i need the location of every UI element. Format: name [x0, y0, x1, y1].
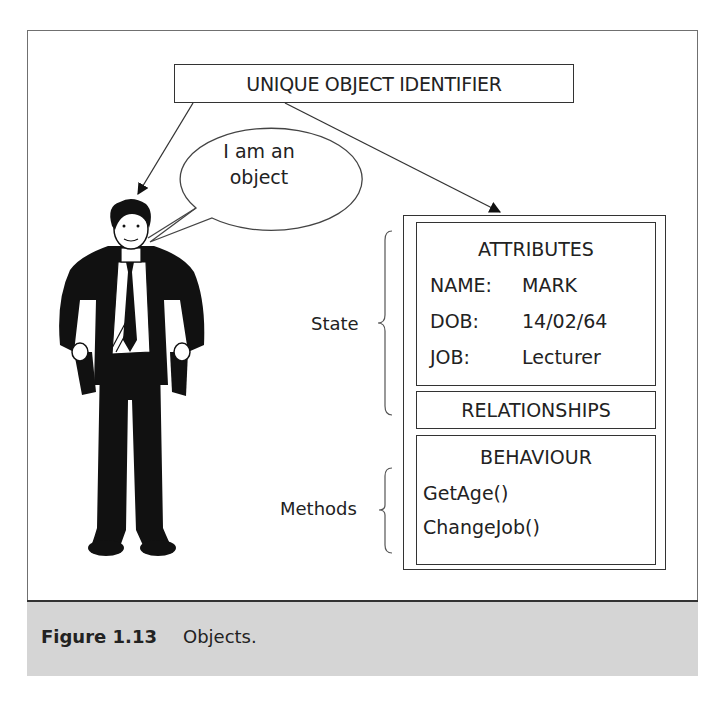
caption-text: Objects.: [183, 626, 257, 647]
state-brace-icon: [378, 231, 392, 415]
speech-line-1: I am an: [178, 138, 340, 164]
caption-number: Figure 1.13: [41, 626, 157, 647]
attribute-value: Lecturer: [522, 346, 601, 368]
unique-object-identifier-box: UNIQUE OBJECT IDENTIFIER: [174, 64, 574, 103]
method-item: ChangeJob(): [423, 516, 540, 538]
attribute-key: DOB:: [430, 310, 479, 332]
relationships-heading: RELATIONSHIPS: [416, 399, 656, 421]
figure-caption: Figure 1.13 Objects.: [27, 600, 698, 676]
method-item: GetAge(): [423, 482, 508, 504]
methods-brace-icon: [379, 468, 392, 553]
attribute-value: 14/02/64: [522, 310, 607, 332]
behaviour-heading: BEHAVIOUR: [416, 446, 656, 468]
attributes-heading: ATTRIBUTES: [416, 238, 656, 260]
unique-object-identifier-label: UNIQUE OBJECT IDENTIFIER: [246, 73, 501, 95]
speech-line-2: object: [178, 164, 340, 190]
methods-label: Methods: [280, 498, 357, 519]
attribute-value: MARK: [522, 274, 577, 296]
state-label: State: [311, 313, 359, 334]
businessman-icon: [59, 199, 204, 556]
attribute-key: NAME:: [430, 274, 492, 296]
attribute-key: JOB:: [430, 346, 470, 368]
speech-bubble-text: I am an object: [178, 138, 340, 190]
